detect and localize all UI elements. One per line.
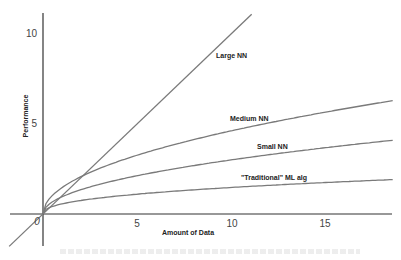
label-small-nn: Small NN	[257, 143, 288, 150]
label-medium-nn: Medium NN	[230, 115, 269, 122]
series-large-nn	[9, 14, 252, 246]
x-tick-5: 5	[134, 218, 140, 229]
y-tick-10: 10	[26, 28, 38, 39]
series-small-nn	[43, 140, 393, 214]
x-tick-15: 15	[319, 218, 331, 229]
origin-label: 0	[34, 216, 40, 227]
x-axis-label: Amount of Data	[162, 229, 214, 236]
x-tick-10: 10	[226, 218, 238, 229]
performance-vs-data-chart: 10 5 0 5 10 15 Amount of Data Performanc…	[0, 0, 401, 260]
figure-caption-faded	[60, 249, 360, 254]
y-axis-label: Performance	[22, 94, 29, 137]
label-traditional-ml: "Traditional" ML alg	[241, 174, 307, 182]
y-tick-5: 5	[31, 118, 37, 129]
series-medium-nn	[43, 101, 393, 214]
label-large-nn: Large NN	[216, 52, 247, 60]
